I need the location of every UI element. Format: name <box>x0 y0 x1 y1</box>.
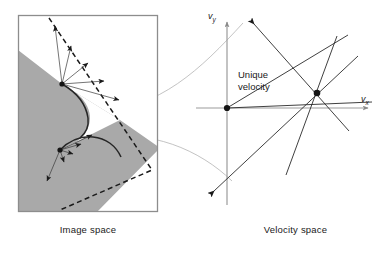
vy-axis-label: vy <box>208 11 216 23</box>
constraint-line-b <box>214 56 358 191</box>
unique-velocity-dot <box>314 90 321 97</box>
velocity-space-caption: Velocity space <box>208 224 383 235</box>
unique-velocity-line-1: Unique <box>238 69 270 81</box>
unique-velocity-annotation: Unique velocity <box>238 69 270 92</box>
velocity-space-panel <box>196 22 372 205</box>
origin-dot <box>224 105 230 111</box>
feature-point-lower <box>57 147 62 152</box>
unique-velocity-line-2: velocity <box>238 81 270 93</box>
feature-point-upper <box>59 81 64 86</box>
image-space-caption: Image space <box>0 224 176 235</box>
diagram-canvas <box>0 0 383 253</box>
figure-container: vy vx Unique velocity Image space Veloci… <box>0 0 383 253</box>
image-space-panel <box>18 16 160 213</box>
vy-axis-label-subscript: y <box>213 16 216 23</box>
vx-axis-label-subscript: x <box>366 99 369 106</box>
constraint-line-c <box>227 102 372 108</box>
vx-axis-label: vx <box>361 94 369 106</box>
